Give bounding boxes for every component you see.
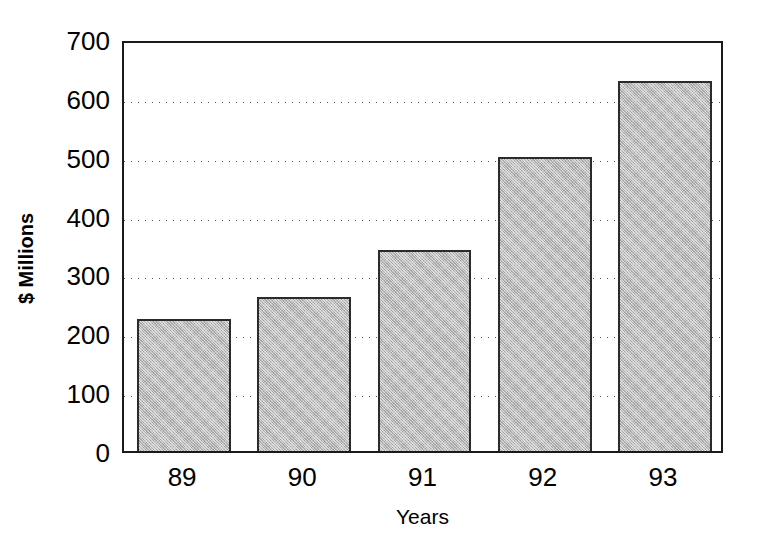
x-tick-label: 92 (483, 462, 603, 492)
y-tick-label: 700 (10, 28, 110, 54)
bar-89 (137, 319, 231, 451)
bar-90 (257, 297, 351, 451)
y-tick-label: 300 (10, 263, 110, 289)
x-axis-ticks: 8990919293 (122, 462, 723, 498)
y-axis-ticks: 0100200300400500600700 (0, 41, 110, 453)
bar-91 (378, 250, 472, 451)
x-tick-label: 89 (122, 462, 242, 492)
bar-chart: $ Millions 0100200300400500600700 899091… (0, 0, 764, 558)
bars-layer (124, 43, 721, 451)
x-axis-label: Years (122, 505, 723, 529)
x-tick-label: 93 (603, 462, 723, 492)
y-tick-label: 400 (10, 205, 110, 231)
bar-92 (498, 157, 592, 451)
plot-area (122, 41, 723, 453)
chart-title (0, 0, 764, 1)
y-tick-label: 200 (10, 322, 110, 348)
y-tick-label: 100 (10, 381, 110, 407)
bar-93 (618, 81, 712, 451)
y-tick-label: 500 (10, 146, 110, 172)
x-tick-label: 90 (242, 462, 362, 492)
y-tick-label: 600 (10, 87, 110, 113)
x-tick-label: 91 (362, 462, 482, 492)
y-tick-label: 0 (10, 440, 110, 466)
